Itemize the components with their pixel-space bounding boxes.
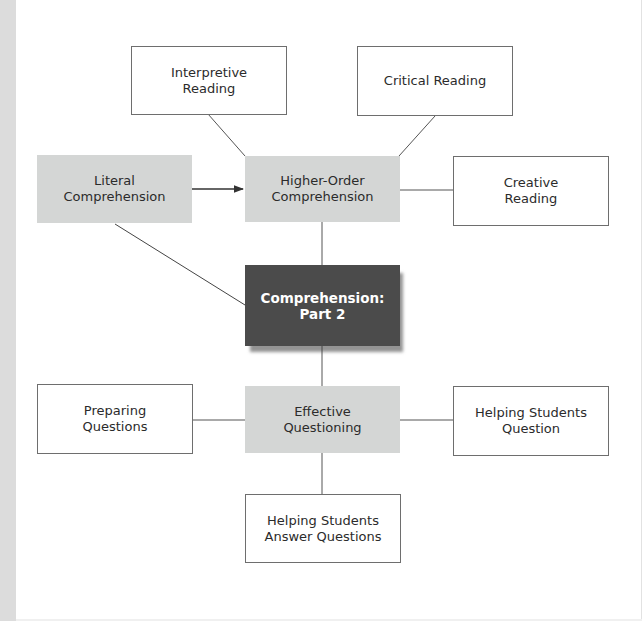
node-helping-students-answer-questions: Helping Students Answer Questions: [245, 494, 401, 563]
node-creative-reading: Creative Reading: [453, 156, 609, 226]
node-label: Higher-Order Comprehension: [271, 173, 373, 205]
node-helping-students-question: Helping Students Question: [453, 386, 609, 456]
node-label: Critical Reading: [384, 73, 486, 89]
node-critical-reading: Critical Reading: [357, 46, 513, 116]
node-preparing-questions: Preparing Questions: [37, 384, 193, 454]
node-label: Helping Students Question: [475, 405, 587, 437]
node-literal-comprehension: Literal Comprehension: [37, 155, 192, 223]
node-label: Helping Students Answer Questions: [265, 513, 382, 545]
edge-critical-to-higher-order: [399, 116, 435, 156]
node-higher-order-comprehension: Higher-Order Comprehension: [245, 156, 400, 222]
node-interpretive-reading: Interpretive Reading: [131, 46, 287, 115]
node-label: Literal Comprehension: [63, 173, 165, 205]
node-label: Effective Questioning: [283, 404, 361, 436]
node-label: Creative Reading: [504, 175, 559, 207]
node-label: Comprehension: Part 2: [260, 290, 384, 322]
edge-literal-to-center: [115, 224, 245, 305]
edge-interpretive-to-higher-order: [208, 114, 245, 156]
node-effective-questioning: Effective Questioning: [245, 386, 400, 453]
node-label: Interpretive Reading: [171, 65, 247, 97]
node-comprehension-part-2: Comprehension: Part 2: [245, 265, 400, 346]
node-label: Preparing Questions: [83, 403, 148, 435]
